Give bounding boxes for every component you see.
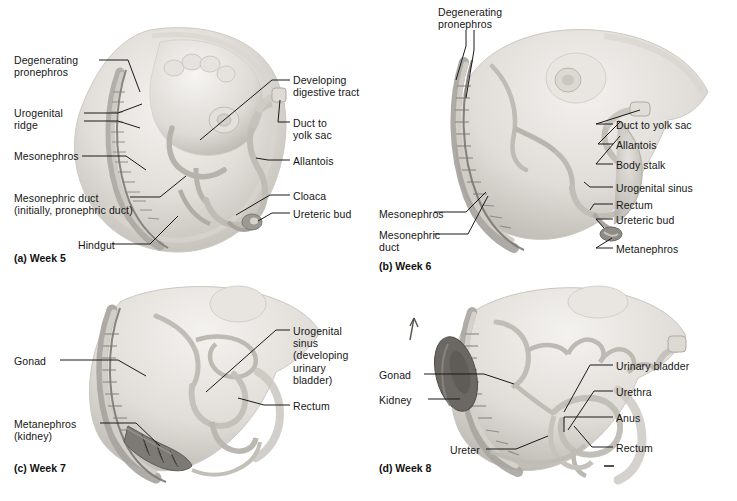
label-urinary-bladder: Urinary bladder <box>616 360 689 372</box>
label-metanephros-b: Metanephros <box>616 243 678 255</box>
label-rectum-c: Rectum <box>293 400 330 412</box>
label-cloaca: Cloaca <box>293 190 326 202</box>
label-ureteric-bud: Ureteric bud <box>293 208 351 220</box>
label-duct-to-yolk-sac: Duct to yolk sac <box>293 117 332 141</box>
panel-week-5: Degenerating pronephros Urogenital ridge… <box>0 0 368 280</box>
label-ureter: Ureter <box>450 444 480 456</box>
label-allantois-b: Allantois <box>616 139 657 151</box>
label-degenerating-pronephros: Degenerating pronephros <box>14 54 78 78</box>
label-gonad-d: Gonad <box>379 369 411 381</box>
label-mesonephric-duct-b: Mesonephric duct <box>379 229 440 253</box>
panel-week-6: Degenerating pronephros Mesonephros Meso… <box>368 0 737 280</box>
label-degenerating-pronephros-b: Degenerating pronephros <box>438 6 502 30</box>
label-urogenital-sinus-b: Urogenital sinus <box>616 182 693 194</box>
caption-panel-b: (b) Week 6 <box>379 260 431 272</box>
label-gonad-c: Gonad <box>14 355 46 367</box>
label-developing-digestive-tract: Developing digestive tract <box>293 74 359 98</box>
label-kidney-d: Kidney <box>379 394 412 406</box>
label-allantois: Allantois <box>293 155 334 167</box>
label-rectum-b: Rectum <box>616 199 653 211</box>
label-anus: Anus <box>616 412 640 424</box>
label-mesonephros-b: Mesonephros <box>379 208 444 220</box>
label-mesonephric-duct: Mesonephric duct (initially, pronephric … <box>14 192 133 216</box>
panel-week-8: Gonad Kidney Urinary bladder Urethra Anu… <box>368 280 737 501</box>
label-hindgut: Hindgut <box>78 239 115 251</box>
panel-week-7: Gonad Metanephros (kidney) Urogenital si… <box>0 280 368 501</box>
label-metanephros-kidney-c: Metanephros (kidney) <box>14 418 76 442</box>
label-mesonephros: Mesonephros <box>14 150 79 162</box>
embryo-head-region <box>546 53 606 103</box>
label-rectum-d: Rectum <box>616 442 653 454</box>
label-duct-to-yolk-sac-b: Duct to yolk sac <box>616 119 692 131</box>
caption-panel-c: (c) Week 7 <box>14 462 66 474</box>
label-urogenital-ridge: Urogenital ridge <box>14 107 63 131</box>
caption-panel-d: (d) Week 8 <box>379 462 431 474</box>
label-urethra: Urethra <box>616 386 652 398</box>
label-urogenital-sinus-c: Urogenital sinus (developing urinary bla… <box>293 325 348 386</box>
label-ureteric-bud-b: Ureteric bud <box>616 214 674 226</box>
label-body-stalk: Body stalk <box>616 159 665 171</box>
caption-panel-a: (a) Week 5 <box>14 252 66 264</box>
